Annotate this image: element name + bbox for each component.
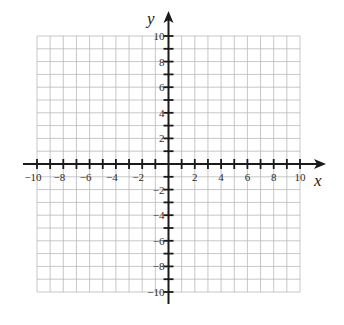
y-tick-label: −4 — [153, 209, 165, 221]
x-tick-label: −6 — [80, 171, 92, 183]
x-axis-label: x — [313, 171, 322, 190]
y-tick-label: 6 — [159, 81, 165, 93]
x-tick-label: 6 — [245, 171, 251, 183]
x-tick-label: 10 — [295, 171, 307, 183]
y-tick-label: −10 — [147, 286, 165, 298]
x-tick-label: 8 — [271, 171, 277, 183]
x-tick-label: −8 — [53, 171, 65, 183]
y-axis-label: y — [145, 9, 155, 28]
x-tick-label: −2 — [132, 171, 144, 183]
y-tick-label: −6 — [153, 235, 165, 247]
x-tick-label: −10 — [24, 171, 42, 183]
x-tick-label: −4 — [106, 171, 118, 183]
coordinate-plane: −10−8−6−4−2246810108642−2−4−6−8−10 x y — [0, 0, 344, 325]
y-tick-label: 8 — [159, 56, 165, 68]
x-tick-label: 2 — [192, 171, 198, 183]
y-tick-label: −8 — [153, 260, 165, 272]
y-tick-label: −2 — [153, 184, 165, 196]
y-tick-label: 4 — [159, 107, 165, 119]
x-tick-label: 4 — [218, 171, 224, 183]
y-tick-label: 10 — [154, 30, 166, 42]
y-tick-label: 2 — [159, 132, 165, 144]
